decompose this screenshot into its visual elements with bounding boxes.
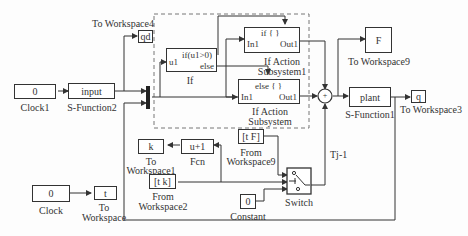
- clock-block[interactable]: 0: [32, 185, 70, 202]
- if-action-out: Out1: [279, 93, 297, 102]
- mux-bar: [146, 86, 150, 109]
- toworkspace-block[interactable]: t: [94, 186, 117, 200]
- if-action-subsystem-block[interactable]: else { } In1 Out1: [238, 79, 300, 104]
- if-label: If: [180, 76, 200, 86]
- if-else-port: else: [200, 62, 214, 71]
- toworkspace3-block[interactable]: q: [411, 90, 426, 103]
- toworkspace4-block[interactable]: qd: [138, 30, 153, 43]
- clock1-block[interactable]: 0: [14, 84, 56, 99]
- fcn-label: Fcn: [181, 157, 214, 167]
- fromworkspace2-var: [t k]: [154, 176, 171, 187]
- if-block[interactable]: u1 if(u1>0) else: [166, 48, 217, 72]
- toworkspace1-var: k: [149, 141, 154, 152]
- fromworkspace9-var: [t F]: [242, 131, 260, 142]
- if-action-label-2: Subsystem: [230, 117, 310, 127]
- toworkspace1-block[interactable]: k: [138, 139, 164, 154]
- fromworkspace9-block[interactable]: [t F]: [238, 129, 264, 144]
- plant-block[interactable]: plant: [349, 87, 391, 107]
- if-action-subsystem1-block[interactable]: if { } In1 Out1: [244, 27, 300, 53]
- constant-block[interactable]: 0: [240, 194, 256, 209]
- toworkspace3-label: To Workspace3: [396, 105, 466, 115]
- constant-value: 0: [246, 196, 251, 207]
- constant-label: Constant: [224, 212, 272, 222]
- if-condition: if(u1>0): [182, 51, 212, 60]
- if-action1-label-2: Subsystem1: [242, 67, 322, 77]
- if-in-port: u1: [169, 58, 178, 67]
- fcn-block[interactable]: u+1: [181, 139, 214, 154]
- if-action-title: else { }: [255, 82, 282, 91]
- fromworkspace9-label-2: Workspace9: [222, 157, 280, 167]
- sfunction2-block[interactable]: input: [68, 83, 115, 99]
- clock1-label: Clock1: [14, 103, 56, 113]
- fromworkspace2-label-2: Workspace2: [136, 202, 190, 212]
- switch-label: Switch: [280, 198, 318, 208]
- plant-name: plant: [360, 92, 380, 103]
- if-action1-title: if { }: [261, 29, 280, 38]
- fcn-expression: u+1: [190, 141, 206, 152]
- switch-block[interactable]: [287, 168, 311, 194]
- clock1-value: 0: [33, 86, 38, 97]
- toworkspace-label-2: Workspace: [80, 213, 128, 223]
- toworkspace4-label: To Workspace4: [88, 19, 158, 29]
- if-action-in: In1: [241, 93, 253, 102]
- simulink-diagram: 0 Clock1 input S-Function2 To Workspace4…: [0, 0, 468, 236]
- fromworkspace2-block[interactable]: [t k]: [149, 174, 176, 189]
- toworkspace9-label: To Workspace9: [344, 57, 414, 67]
- clock-label: Clock: [32, 206, 70, 216]
- if-action1-out: Out1: [280, 40, 298, 49]
- tj-signal-label: Tj-1: [330, 150, 352, 160]
- clock-value: 0: [49, 188, 54, 199]
- plant-label: S-Function1: [338, 110, 402, 120]
- sfunction2-name: input: [81, 86, 102, 97]
- toworkspace9-block[interactable]: F: [365, 27, 392, 53]
- sum-block[interactable]: +: [320, 91, 330, 101]
- sfunction2-label: S-Function2: [62, 103, 122, 113]
- toworkspace4-var: qd: [141, 31, 151, 42]
- toworkspace9-var: F: [376, 35, 382, 46]
- toworkspace3-var: q: [416, 91, 421, 102]
- if-action1-in: In1: [247, 40, 259, 49]
- toworkspace-var: t: [104, 188, 107, 199]
